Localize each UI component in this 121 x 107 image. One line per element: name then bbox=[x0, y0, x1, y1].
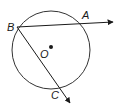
label-c: C bbox=[51, 89, 59, 101]
ray-ba bbox=[17, 22, 113, 27]
circle-o bbox=[12, 11, 90, 89]
ray-bc bbox=[17, 27, 70, 103]
inscribed-angle-diagram: B A O C bbox=[0, 0, 121, 107]
label-b: B bbox=[7, 21, 14, 33]
label-o: O bbox=[40, 48, 49, 60]
label-a: A bbox=[81, 9, 89, 21]
center-point-o bbox=[49, 45, 53, 49]
